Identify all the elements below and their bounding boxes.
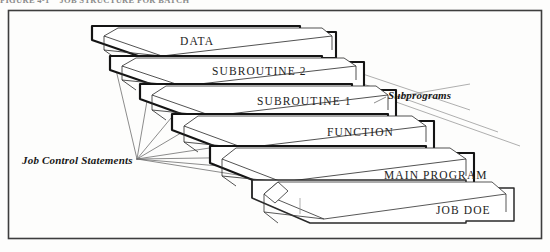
block-label-data: DATA — [180, 36, 214, 48]
block-label-subroutine-1: SUBROUTINE 1 — [257, 96, 352, 108]
block-label-main-program: MAIN PROGRAM — [384, 170, 488, 182]
block-label-job-doe: JOB DOE — [436, 205, 491, 217]
block-label-function: FUNCTION — [327, 127, 394, 139]
figure-root: FIGURE 4-1JOB STRUCTURE FOR BATCH — [0, 0, 550, 252]
block-job-doe — [252, 180, 514, 223]
annotation-job-control-statements: Job Control Statements — [22, 155, 133, 166]
block-label-subroutine-2: SUBROUTINE 2 — [212, 66, 307, 78]
annotation-subprograms: Subprograms — [388, 90, 451, 101]
